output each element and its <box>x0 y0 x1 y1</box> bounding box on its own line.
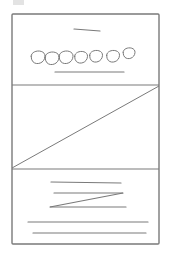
corner-smudge <box>13 0 24 5</box>
thumbnail-circle-3 <box>59 51 73 64</box>
text-line-1 <box>51 182 121 183</box>
thumbnail-circle-6 <box>107 50 120 62</box>
thumbnail-row <box>31 48 135 65</box>
thumbnail-circle-7 <box>123 48 135 59</box>
text-section <box>28 182 148 233</box>
wireframe-sketch <box>0 0 171 258</box>
text-placeholder-lines <box>28 182 148 233</box>
thumbnail-circle-4 <box>75 51 88 63</box>
image-placeholder-diagonal <box>12 86 159 168</box>
title-placeholder-line <box>74 29 100 31</box>
image-placeholder-section <box>12 86 159 168</box>
thumbnail-circle-2 <box>45 52 59 65</box>
thumbnail-circle-5 <box>90 50 103 62</box>
text-zigzag-stroke <box>50 193 123 207</box>
header-section <box>31 29 135 72</box>
phone-frame <box>12 14 159 244</box>
thumbnail-circle-1 <box>31 51 45 64</box>
